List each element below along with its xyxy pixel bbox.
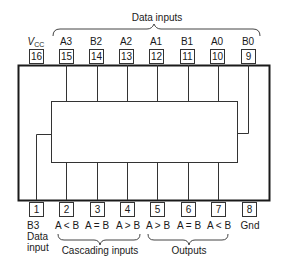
pin-15-name: A3 (60, 36, 72, 47)
pin-1-box: 1 (29, 202, 44, 217)
pin-14-box: 14 (89, 49, 104, 64)
pin-13-box: 13 (119, 49, 134, 64)
data-inputs-brace (53, 24, 260, 36)
pin-10-name: A0 (211, 36, 223, 47)
data-inputs-label: Data inputs (132, 12, 183, 23)
pin-1-name-line2: Data (27, 231, 48, 242)
logic-block (52, 102, 238, 163)
pin-8-name: Gnd (241, 220, 260, 231)
cascading-inputs-brace (58, 234, 140, 245)
pin-1-name: B3 (27, 220, 39, 231)
pin-11-box: 11 (180, 49, 195, 64)
pin-16-name: VCC (28, 36, 45, 50)
pin-6-box: 6 (181, 202, 196, 217)
bottom-pin-leads (37, 135, 219, 201)
pin-12-name: A1 (150, 36, 162, 47)
pin-6-name: A = B (177, 220, 201, 231)
pin-9-name: B0 (242, 36, 254, 47)
pin-4-box: 4 (120, 202, 135, 217)
pin-2-name: A < B (55, 220, 79, 231)
outputs-label: Outputs (171, 245, 206, 256)
pin-5-box: 5 (150, 202, 165, 217)
pin-10-box: 10 (210, 49, 225, 64)
pin-11-name: B1 (181, 36, 193, 47)
pin-2-box: 2 (59, 202, 74, 217)
pin-15-box: 15 (59, 49, 74, 64)
pin-12-box: 12 (149, 49, 164, 64)
pin-7-name: A < B (207, 220, 231, 231)
pin-1-name-line3: input (27, 242, 49, 253)
pin-3-box: 3 (90, 202, 105, 217)
pin-4-name: A > B (116, 220, 140, 231)
pin-5-name: A > B (146, 220, 170, 231)
pin-3-name: A = B (85, 220, 109, 231)
cascading-inputs-label: Cascading inputs (62, 245, 139, 256)
pin-13-name: A2 (120, 36, 132, 47)
outputs-brace (148, 234, 228, 245)
pin-16-box: 16 (29, 49, 44, 64)
pin-8-box: 8 (242, 202, 257, 217)
chip-outline (19, 66, 270, 201)
top-pin-leads (67, 65, 249, 134)
pin-9-box: 9 (241, 49, 256, 64)
pin-14-name: B2 (90, 36, 102, 47)
pin-7-box: 7 (211, 202, 226, 217)
